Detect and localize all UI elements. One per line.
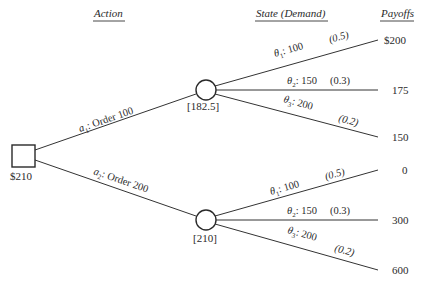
header-state: State (Demand) bbox=[255, 7, 328, 21]
a2-state-2-prob: (0.3) bbox=[330, 205, 351, 217]
decision-node-square bbox=[12, 145, 35, 167]
svg-text:θ3: 200: θ3: 200 bbox=[282, 93, 315, 114]
header-state-label: State (Demand) bbox=[256, 7, 326, 20]
action-2-text: : Order 200 bbox=[101, 168, 150, 194]
payoff-a2-s2: 300 bbox=[392, 214, 409, 226]
svg-text:a1: Order 100: a1: Order 100 bbox=[77, 105, 136, 137]
chance-node-a2-ev: [210] bbox=[193, 232, 217, 244]
action-2-label: a2: Order 200 bbox=[91, 165, 150, 197]
action-1-label: a1: Order 100 bbox=[77, 105, 136, 137]
payoff-a1-s1: $200 bbox=[384, 34, 407, 46]
a2-state-3-label: θ3: 200 bbox=[286, 224, 319, 245]
a1-state-2-label: θ2: 150 bbox=[287, 75, 317, 89]
svg-text:θ3: 200: θ3: 200 bbox=[286, 224, 319, 245]
a1-state-1-prob: (0.5) bbox=[328, 29, 351, 46]
payoff-a1-s3: 150 bbox=[392, 131, 409, 143]
edge-action-1 bbox=[35, 94, 196, 150]
header-action: Action bbox=[93, 7, 125, 21]
a1-state-3-label: θ3: 200 bbox=[282, 93, 315, 114]
a2-state-2-label: θ2: 150 bbox=[287, 205, 317, 219]
chance-node-a2 bbox=[196, 210, 216, 230]
chance-node-a1 bbox=[196, 80, 216, 100]
state-demand: : 150 bbox=[296, 75, 317, 86]
payoff-a2-s1: 0 bbox=[402, 164, 408, 176]
decision-tree: Action State (Demand) Payoffs $210 [182.… bbox=[0, 0, 421, 284]
state-demand: : 100 bbox=[281, 40, 305, 56]
a1-state-2-prob: (0.3) bbox=[330, 75, 351, 87]
a1-state-1-label: θ1: 100 bbox=[273, 40, 306, 62]
header-payoffs-label: Payoffs bbox=[380, 7, 414, 19]
edge-action-2 bbox=[35, 160, 196, 216]
decision-node-value: $210 bbox=[10, 170, 33, 182]
payoff-a2-s3: 600 bbox=[392, 264, 409, 276]
header-action-label: Action bbox=[93, 7, 123, 19]
svg-text:θ1: 100: θ1: 100 bbox=[273, 40, 306, 62]
state-demand: : 200 bbox=[291, 96, 314, 112]
state-demand: : 100 bbox=[277, 178, 301, 194]
header-payoffs: Payoffs bbox=[380, 7, 414, 21]
svg-text:a2: Order 200: a2: Order 200 bbox=[91, 165, 150, 197]
state-demand: : 200 bbox=[295, 227, 318, 243]
state-demand: : 150 bbox=[296, 205, 317, 216]
a2-state-3-prob: (0.2) bbox=[333, 242, 356, 259]
payoff-a1-s2: 175 bbox=[392, 84, 409, 96]
chance-node-a1-ev: [182.5] bbox=[187, 100, 219, 112]
